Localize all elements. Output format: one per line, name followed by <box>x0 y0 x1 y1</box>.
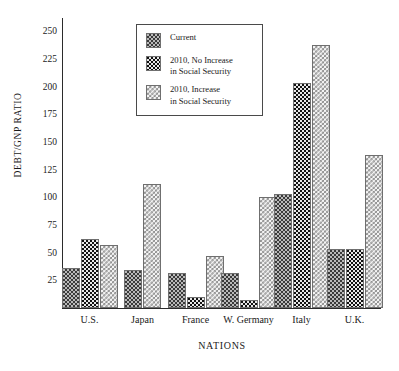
x-tick-label-italy: Italy <box>292 314 310 325</box>
bar <box>143 184 161 308</box>
bar <box>240 300 258 308</box>
bar <box>100 245 118 308</box>
legend-swatch-icon <box>146 33 161 48</box>
bar <box>346 249 364 308</box>
legend-swatch-icon <box>146 85 161 100</box>
y-tick-label-225: 225 <box>23 54 57 64</box>
y-tick-label-25: 25 <box>23 275 57 285</box>
x-tick-label-wgermany: W. Germany <box>223 314 274 325</box>
y-tick-label-50: 50 <box>23 247 57 257</box>
y-tick-label-75: 75 <box>23 220 57 230</box>
x-tick-label-france: France <box>182 314 209 325</box>
bar <box>293 83 311 308</box>
bar <box>274 194 292 308</box>
legend-item: Current <box>146 32 254 48</box>
bar-group <box>327 18 383 308</box>
legend-item: 2010, Increasein Social Security <box>146 84 254 106</box>
bar <box>187 297 205 308</box>
legend-item-label: Current <box>170 32 196 43</box>
x-axis-label: NATIONS <box>63 340 381 351</box>
bar <box>365 155 383 308</box>
y-tick-label-200: 200 <box>23 81 57 91</box>
bar <box>168 273 186 308</box>
bar-chart: DEBT/GNP RATIO 2550751001251501752002252… <box>0 0 399 371</box>
y-tick-label-175: 175 <box>23 109 57 119</box>
y-tick-label-100: 100 <box>23 192 57 202</box>
legend-item-label: 2010, No Increasein Social Security <box>170 55 233 77</box>
y-tick-label-150: 150 <box>23 137 57 147</box>
y-tick-label-125: 125 <box>23 164 57 174</box>
bar <box>62 268 80 308</box>
legend-item: 2010, No Increasein Social Security <box>146 55 254 77</box>
chart-legend: Current2010, No Increasein Social Securi… <box>136 24 263 116</box>
bar <box>327 249 345 308</box>
legend-swatch-icon <box>146 56 161 71</box>
x-axis-line <box>62 308 381 309</box>
legend-item-label: 2010, Increasein Social Security <box>170 84 231 106</box>
y-axis-label: DEBT/GNP RATIO <box>13 65 23 205</box>
bar-group <box>274 18 330 308</box>
x-tick-label-us: U.S. <box>81 314 99 325</box>
bar <box>221 273 239 308</box>
x-tick-label-uk: U.K. <box>345 314 364 325</box>
x-tick-label-japan: Japan <box>131 314 154 325</box>
bar <box>81 239 99 308</box>
bar <box>124 270 142 308</box>
y-tick-label-250: 250 <box>23 26 57 36</box>
bar-group <box>62 18 118 308</box>
